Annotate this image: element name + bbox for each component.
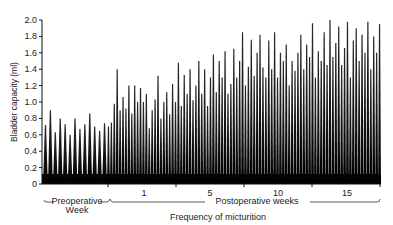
y-tick-label: 1.4 <box>24 64 37 74</box>
y-tick-label: 0.2 <box>24 163 37 173</box>
spike <box>372 36 375 184</box>
spike <box>148 128 151 184</box>
x-axis-label: Frequency of micturition <box>170 212 266 222</box>
spike <box>297 53 300 184</box>
spike <box>244 86 247 184</box>
spike <box>329 20 332 184</box>
spike <box>364 53 367 184</box>
spike <box>63 124 68 184</box>
spike <box>349 77 352 184</box>
spike <box>247 67 250 184</box>
spike <box>361 35 364 184</box>
spike <box>282 61 285 184</box>
spike <box>215 92 218 184</box>
spike <box>311 23 314 184</box>
spike <box>174 102 177 184</box>
spike <box>340 65 343 184</box>
y-tick-label: 0.4 <box>24 146 37 156</box>
spike <box>369 69 372 184</box>
spike <box>302 69 305 184</box>
spike <box>133 86 136 184</box>
spike <box>378 24 381 184</box>
y-tick-label: 1.2 <box>24 81 37 91</box>
spike <box>130 113 133 184</box>
spike <box>332 57 335 184</box>
spike <box>73 118 78 184</box>
spike <box>337 27 340 184</box>
spike <box>177 63 180 184</box>
spike <box>320 61 323 184</box>
spike <box>308 57 311 184</box>
spike <box>110 123 113 185</box>
spike <box>221 77 224 184</box>
spike <box>92 127 97 184</box>
x-tick-label: 15 <box>342 188 352 198</box>
spike <box>171 84 174 184</box>
week-label: Week <box>66 205 89 215</box>
x-tick-label: 5 <box>207 188 212 198</box>
spike <box>250 40 253 184</box>
spike <box>197 61 200 184</box>
spike <box>43 125 48 184</box>
y-tick-label: 0.6 <box>24 130 37 140</box>
spike <box>165 92 168 184</box>
spike <box>259 35 262 184</box>
spike <box>157 76 160 184</box>
spike <box>142 102 145 184</box>
spike <box>346 22 349 184</box>
spike <box>160 118 163 184</box>
spike <box>334 43 337 184</box>
y-axis-label: Bladder capacity (ml) <box>9 62 19 142</box>
spike <box>203 69 206 184</box>
spike <box>343 48 346 184</box>
spike <box>127 86 130 184</box>
spike <box>48 110 53 184</box>
spike <box>58 118 63 184</box>
spike <box>68 135 73 184</box>
spike <box>206 106 209 184</box>
y-tick-label: 1.8 <box>24 31 37 41</box>
y-axis: 00.20.40.60.81.01.21.41.61.82.0 <box>24 15 42 189</box>
spike <box>253 76 256 184</box>
spike <box>224 51 227 184</box>
spike <box>162 102 165 184</box>
spike <box>352 41 355 185</box>
spike <box>294 71 297 184</box>
spike <box>279 53 282 184</box>
spike <box>83 124 88 184</box>
spike <box>256 53 259 184</box>
spike <box>154 100 157 184</box>
y-tick-label: 1.6 <box>24 48 37 58</box>
spike <box>375 53 378 184</box>
y-tick-label: 0 <box>32 179 37 189</box>
spike <box>180 106 183 184</box>
spike <box>102 123 107 184</box>
postoperative-label: Postoperative weeks <box>215 196 299 206</box>
bladder-capacity-chart: 00.20.40.60.81.01.21.41.61.82.0 151015 B… <box>0 0 393 225</box>
spike <box>238 61 241 184</box>
spike <box>267 41 270 185</box>
spike <box>53 132 58 184</box>
spike <box>366 22 369 184</box>
spike <box>107 127 110 184</box>
spike <box>323 32 326 184</box>
spike <box>276 77 279 184</box>
spike <box>273 32 276 184</box>
spike <box>200 94 203 184</box>
spike <box>235 77 238 184</box>
x-tick-label: 1 <box>141 188 146 198</box>
spike <box>139 88 142 184</box>
spike <box>186 94 189 184</box>
spike <box>168 114 171 184</box>
spike <box>270 69 273 184</box>
y-tick-label: 2.0 <box>24 15 37 25</box>
spike <box>285 45 288 184</box>
spike <box>264 77 267 184</box>
spike <box>326 65 329 184</box>
spike <box>136 102 139 184</box>
spike <box>317 51 320 184</box>
spike <box>241 32 244 184</box>
spike <box>262 68 265 184</box>
spike <box>87 113 92 184</box>
spike <box>209 77 212 184</box>
